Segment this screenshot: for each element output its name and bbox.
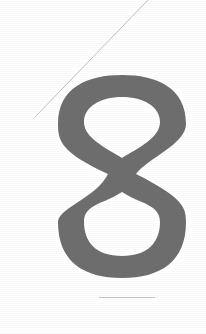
figure-canvas [0, 0, 206, 334]
page-canvas-container: Large gray numeral 8 with a faint diagon… [0, 0, 206, 334]
